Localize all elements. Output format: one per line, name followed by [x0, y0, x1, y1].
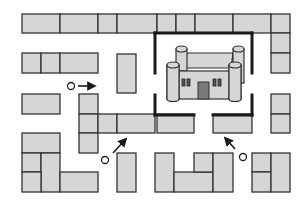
- city-block: [22, 53, 41, 73]
- city-block: [98, 14, 117, 33]
- city-block: [271, 14, 290, 33]
- city-block: [155, 153, 174, 192]
- city-block: [117, 14, 157, 33]
- city-block: [271, 53, 290, 73]
- city-block: [117, 153, 136, 192]
- start-circle-icon: [68, 83, 75, 90]
- city-block: [79, 94, 98, 114]
- city-block: [213, 153, 233, 192]
- start-point-a: [68, 83, 93, 90]
- city-block: [233, 14, 271, 33]
- city-block: [213, 114, 252, 133]
- city-block: [22, 14, 60, 33]
- castle-icon: [167, 46, 244, 102]
- city-block: [41, 153, 60, 192]
- start-circle-icon: [102, 157, 109, 164]
- city-block: [22, 172, 41, 192]
- city-block: [60, 172, 98, 192]
- city-block: [98, 114, 117, 133]
- city-block: [252, 172, 271, 192]
- city-block: [195, 14, 233, 33]
- city-block: [271, 153, 290, 192]
- city-block: [117, 114, 155, 133]
- city-block: [79, 114, 98, 133]
- maze-canvas: [0, 0, 307, 208]
- city-block: [174, 172, 213, 192]
- maze-diagram: [0, 0, 307, 208]
- city-block: [60, 53, 98, 73]
- city-block: [271, 114, 290, 133]
- city-block: [271, 33, 290, 53]
- city-block: [157, 114, 194, 133]
- city-block: [117, 54, 136, 93]
- arrow-up-left-icon: [227, 140, 235, 149]
- start-circle-icon: [240, 154, 247, 161]
- city-block: [79, 133, 98, 153]
- city-block: [157, 14, 176, 33]
- city-block: [194, 153, 213, 172]
- city-block: [271, 94, 290, 114]
- city-block: [41, 53, 60, 73]
- city-block: [252, 153, 271, 172]
- city-block: [22, 133, 60, 153]
- city-block: [60, 14, 98, 33]
- city-block: [22, 153, 41, 172]
- arrow-up-right-icon: [113, 141, 124, 153]
- city-block: [22, 94, 60, 114]
- city-block: [176, 14, 195, 33]
